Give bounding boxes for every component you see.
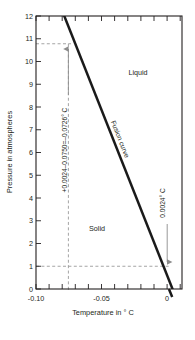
y-tick-label: 6 <box>29 148 33 157</box>
x-tick-label: 0 <box>165 294 169 303</box>
x-axis-title: Temperature in ° C <box>72 308 134 317</box>
x-tick-label: -0.05 <box>93 294 109 303</box>
y-tick-label: 10 <box>25 57 33 66</box>
y-tick-label: 9 <box>29 80 33 89</box>
y-tick-label: 7 <box>29 125 33 134</box>
region-label-liquid: Liquid <box>128 68 147 77</box>
phase-diagram-figure: 12 11 10 9 8 7 6 5 4 3 2 1 0 <box>0 0 195 340</box>
x-tick-label: -0.10 <box>28 294 44 303</box>
y-tick-label: 5 <box>29 171 33 180</box>
region-label-solid: Solid <box>89 224 105 233</box>
y-tick-label: 1 <box>29 262 33 271</box>
right-annotation-label: 0.0024° C <box>159 188 166 218</box>
y-tick-label: 4 <box>29 194 33 203</box>
y-tick-label: 3 <box>29 216 33 225</box>
y-axis-title: Pressure in atmospheres <box>5 111 14 193</box>
phase-diagram-svg: 12 11 10 9 8 7 6 5 4 3 2 1 0 <box>0 0 195 340</box>
y-tick-label: 2 <box>29 239 33 248</box>
y-tick-label: 8 <box>29 103 33 112</box>
y-tick-label: 12 <box>25 12 33 21</box>
y-tick-label: 0 <box>29 285 33 294</box>
y-tick-label: 11 <box>26 34 33 43</box>
left-annotation-label: +0.0024–0.0750=–0.0726° C <box>61 107 68 192</box>
